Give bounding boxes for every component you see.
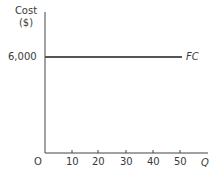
x-tick-label-50: 50 — [174, 157, 187, 167]
origin-label: O — [34, 157, 42, 167]
fc-series-label: FC — [186, 52, 199, 62]
x-tick-label-40: 40 — [147, 157, 160, 167]
y-tick-label-6000: 6,000 — [8, 52, 37, 62]
y-axis-label-line1: Cost — [11, 6, 41, 16]
x-tick-label-10: 10 — [66, 157, 79, 167]
x-tick-label-20: 20 — [92, 157, 105, 167]
x-axis-label: Q — [201, 158, 209, 168]
y-axis-label-line2: ($) — [11, 18, 41, 28]
x-tick-label-30: 30 — [120, 157, 133, 167]
